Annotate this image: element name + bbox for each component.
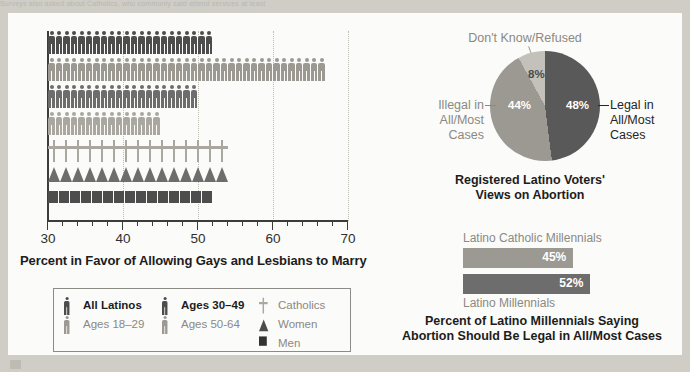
triangle-glyph xyxy=(108,165,120,182)
person-glyph xyxy=(168,85,176,108)
person-glyph xyxy=(123,31,131,54)
pie-slice-label-legal: 48% xyxy=(566,99,589,111)
person-glyph xyxy=(311,58,319,81)
person-glyph xyxy=(63,112,71,135)
legend-label: Men xyxy=(278,334,300,353)
person-glyph xyxy=(258,58,266,81)
person-glyph xyxy=(161,58,169,81)
x-tick-label-40: 40 xyxy=(115,231,130,246)
person-glyph xyxy=(71,85,79,108)
millennials-bar-chart: Latino Catholic Millennials 45% 52% Lati… xyxy=(380,218,682,355)
person-glyph xyxy=(101,31,109,54)
cross-glyph xyxy=(48,139,60,162)
person-glyph xyxy=(221,58,229,81)
person-glyph xyxy=(86,58,94,81)
person-glyph xyxy=(183,85,191,108)
person-glyph xyxy=(63,31,71,54)
pie-right-leader-dash xyxy=(598,105,609,106)
tick-66 xyxy=(317,221,318,226)
triangle-glyph xyxy=(216,165,228,182)
legend-item[interactable]: All Latinos xyxy=(64,295,144,314)
person-glyph xyxy=(228,58,236,81)
pie-caption-line2: Views on Abortion xyxy=(400,188,660,203)
legend-swatch xyxy=(162,316,176,333)
person-glyph xyxy=(56,85,64,108)
cross-glyph xyxy=(204,139,216,162)
person-glyph xyxy=(273,58,281,81)
person-glyph xyxy=(56,31,64,54)
person-glyph xyxy=(101,58,109,81)
person-glyph xyxy=(138,31,146,54)
figure-panel: 3040506070 Percent in Favor of Allowing … xyxy=(8,13,682,355)
pictogram-row xyxy=(48,112,161,137)
millennials-caption-line1: Percent of Latino Millennials Saying xyxy=(382,314,682,329)
person-glyph xyxy=(153,112,161,135)
person-glyph xyxy=(191,58,199,81)
cross-glyph xyxy=(168,139,180,162)
person-glyph xyxy=(86,31,94,54)
pie-caption: Registered Latino Voters' Views on Abort… xyxy=(400,173,660,203)
person-glyph xyxy=(56,112,64,135)
bar-catholic-millennials: 45% xyxy=(463,248,573,268)
person-glyph xyxy=(93,85,101,108)
square-glyph xyxy=(114,191,125,204)
person-glyph xyxy=(168,58,176,81)
tick-52 xyxy=(212,221,213,226)
person-glyph xyxy=(71,58,79,81)
tick-62 xyxy=(287,221,288,226)
pie-chart: Don't Know/Refused 48% 44% 8% Illegal in… xyxy=(380,13,682,218)
pictogram-row xyxy=(48,85,198,110)
person-glyph xyxy=(71,112,79,135)
x-axis-ticks xyxy=(47,221,348,230)
legend-item[interactable]: Ages 18–29 xyxy=(64,314,144,333)
cross-glyph xyxy=(259,297,268,314)
person-glyph xyxy=(162,316,168,334)
triangle-glyph xyxy=(180,165,192,182)
legend-item[interactable]: Ages 30–49 xyxy=(162,295,244,314)
legend-item[interactable]: Catholics xyxy=(259,295,325,314)
person-glyph xyxy=(198,31,206,54)
person-glyph xyxy=(176,85,184,108)
tick-64 xyxy=(302,221,303,226)
pie-label-legal: Legal inAll/MostCases xyxy=(610,98,690,143)
tick-50 xyxy=(197,221,198,230)
millennials-caption-line2: Abortion Should Be Legal in All/Most Cas… xyxy=(382,329,682,344)
person-glyph xyxy=(78,85,86,108)
pie-label-illegal-line2: All/Most xyxy=(386,113,484,128)
page-bleed-text: Surveys also asked about Catholics, who … xyxy=(0,0,690,13)
tick-40 xyxy=(122,221,123,230)
person-glyph xyxy=(48,31,56,54)
legend-label: All Latinos xyxy=(83,296,142,315)
tick-30 xyxy=(47,221,48,230)
person-glyph xyxy=(138,85,146,108)
pictogram-row xyxy=(48,139,228,164)
bar-latino-millennials: 52% xyxy=(463,274,590,294)
triangle-glyph xyxy=(72,165,84,182)
legend-label: Catholics xyxy=(278,296,325,315)
triangle-glyph xyxy=(96,165,108,182)
person-glyph xyxy=(63,58,71,81)
person-glyph xyxy=(176,31,184,54)
tick-56 xyxy=(242,221,243,226)
chart-legend: All LatinosAges 18–29 Ages 30–49Ages 50-… xyxy=(53,288,351,352)
tick-54 xyxy=(227,221,228,226)
tick-70 xyxy=(347,221,348,230)
person-glyph xyxy=(48,112,56,135)
person-glyph xyxy=(318,58,326,81)
triangle-glyph xyxy=(60,165,72,182)
bar-value-catholic-millennials: 45% xyxy=(542,250,566,264)
triangle-glyph xyxy=(192,165,204,182)
legend-item[interactable]: Ages 50-64 xyxy=(162,314,244,333)
person-glyph xyxy=(206,58,214,81)
cross-glyph xyxy=(84,139,96,162)
tick-58 xyxy=(257,221,258,226)
square-glyph xyxy=(48,191,59,204)
person-glyph xyxy=(183,58,191,81)
pictogram-row xyxy=(48,31,213,56)
pie-label-legal-line3: Cases xyxy=(610,128,690,143)
person-glyph xyxy=(191,85,199,108)
legend-item[interactable]: Women xyxy=(259,314,325,333)
person-glyph xyxy=(198,58,206,81)
person-glyph xyxy=(303,58,311,81)
legend-item[interactable]: Men xyxy=(259,333,325,352)
